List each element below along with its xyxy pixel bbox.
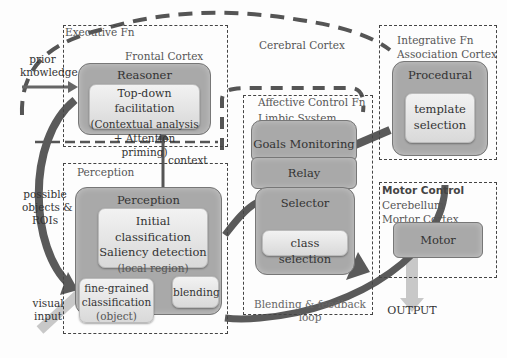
blending-loop-label: Blending & feedback loop <box>250 298 370 324</box>
fine-grained-inner: fine-grained classification (object) <box>79 278 154 323</box>
context-label: context <box>168 154 208 167</box>
input-text: input <box>30 310 66 323</box>
rois-text: ROIs <box>22 214 68 227</box>
selector-box: Selector class selection <box>255 187 355 275</box>
class-selection-label: class selection <box>263 236 347 267</box>
selector-title: Selector <box>256 196 354 210</box>
initial-classification-label: Initial classification <box>99 214 207 245</box>
reasoner-box: Reasoner Top-down facilitation (Contextu… <box>78 63 211 135</box>
perception-box: Perception Initial classification Salien… <box>75 187 222 315</box>
relay-title: Relay <box>252 166 356 180</box>
fine-grained-line3: (object) <box>80 309 153 323</box>
template-line1: template <box>406 102 474 118</box>
perception-title: Perception <box>76 193 221 207</box>
integrative-label: Integrative Fn <box>397 35 473 46</box>
motor-control-label: Motor Control <box>382 185 464 196</box>
possible-text: possible <box>22 188 68 201</box>
fine-grained-line1: fine-grained <box>80 281 153 295</box>
template-selection-inner: template selection <box>405 93 475 143</box>
frontal-cortex-label: Frontal Cortex <box>125 51 203 62</box>
association-cortex-label: Association Cortex <box>397 49 497 60</box>
fine-grained-line2: classification <box>80 295 153 309</box>
initial-classification-inner: Initial classification Saliency detectio… <box>98 208 208 268</box>
motor-box: Motor <box>393 222 483 258</box>
reasoner-line1: Top-down facilitation <box>90 87 199 117</box>
affective-label: Affective Control Fn <box>258 97 365 108</box>
visual-text: visual <box>30 297 66 310</box>
blending-inner: blending <box>172 276 219 308</box>
saliency-detection-label: Saliency detection <box>99 245 207 261</box>
reasoner-line2: (Contextual analysis <box>90 117 199 131</box>
prior-text: prior <box>20 53 65 66</box>
loop-line1: Blending & feedback <box>250 298 370 311</box>
visual-input-label: visual input <box>30 297 66 323</box>
executive-label: Executive Fn <box>65 27 135 38</box>
blending-label: blending <box>173 285 218 299</box>
class-selection-inner: class selection <box>262 230 348 256</box>
loop-line2: loop <box>250 311 370 324</box>
perception-region-label: Perception <box>77 167 134 178</box>
cerebral-cortex-label: Cerebral Cortex <box>259 40 345 51</box>
procedural-box: Procedural template selection <box>392 61 488 156</box>
relay-box: Relay <box>251 157 357 189</box>
output-label: OUTPUT <box>381 304 443 318</box>
motor-title: Motor <box>394 233 482 247</box>
prior-knowledge-label: prior knowledge <box>20 53 65 79</box>
reasoner-inner: Top-down facilitation (Contextual analys… <box>89 84 200 129</box>
procedural-title: Procedural <box>393 68 487 82</box>
goals-title: Goals Monitoring <box>252 137 356 151</box>
template-line2: selection <box>406 118 474 134</box>
goals-monitoring-box: Goals Monitoring <box>251 120 357 160</box>
knowledge-text: knowledge <box>20 66 65 79</box>
local-region-label: (local region) <box>99 261 207 275</box>
possible-objects-label: possible objects & ROIs <box>22 188 68 227</box>
reasoner-title: Reasoner <box>79 68 210 82</box>
objects-text: objects & <box>22 201 68 214</box>
diagram-canvas: Executive Fn Frontal Cortex Cerebral Cor… <box>0 0 507 358</box>
cerebellum-label: Cerebellum <box>382 200 444 211</box>
